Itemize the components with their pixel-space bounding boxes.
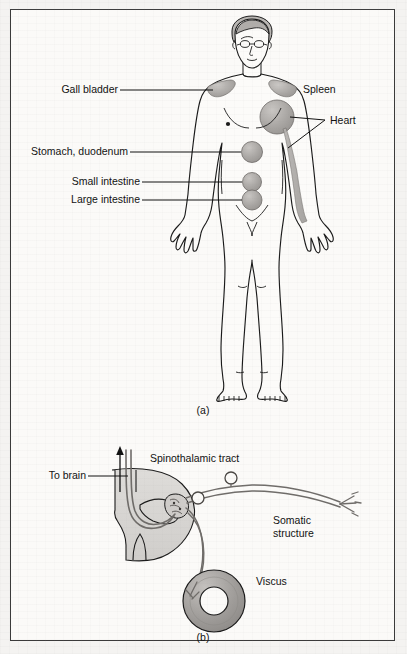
caption-panel-b: (b) <box>197 631 210 643</box>
label-small-intestine: Small intestine <box>72 175 140 187</box>
zone-small-intestine <box>243 173 262 192</box>
scanned-page: Gall bladder Spleen Heart Stomach, duode… <box>0 0 407 654</box>
zone-spleen-chest <box>260 100 294 134</box>
somatic-afferent-neuron <box>186 485 340 507</box>
label-viscus: Viscus <box>256 575 287 587</box>
zone-stomach-duodenum <box>242 142 263 163</box>
label-somatic-structure-line2: structure <box>273 527 314 539</box>
body-silhouette <box>171 74 334 401</box>
panel-b-figure: To brain Spinothalamic tract Somatic str… <box>49 446 361 643</box>
synapse-dot-2 <box>179 508 181 510</box>
feet-toes <box>219 396 285 401</box>
somatic-axon-lower <box>187 491 340 507</box>
label-stomach-duodenum: Stomach, duodenum <box>31 145 128 157</box>
synapse-dot-1 <box>173 502 175 504</box>
ear-right <box>269 42 271 49</box>
label-heart: Heart <box>330 114 356 126</box>
caption-panel-a: (a) <box>197 404 210 416</box>
label-spleen: Spleen <box>303 83 336 95</box>
visceral-cell-body <box>192 492 204 504</box>
zone-large-intestine <box>242 190 262 210</box>
panel-a-figure: Gall bladder Spleen Heart Stomach, duode… <box>31 16 356 416</box>
nipple-left <box>226 122 230 126</box>
label-gall-bladder: Gall bladder <box>61 83 118 95</box>
label-to-brain: To brain <box>49 469 87 481</box>
free-nerve-ending <box>340 492 361 516</box>
label-large-intestine: Large intestine <box>71 193 140 205</box>
figure-illustration: Gall bladder Spleen Heart Stomach, duode… <box>0 0 407 654</box>
label-spinothalamic-tract: Spinothalamic tract <box>150 452 239 464</box>
label-somatic-structure-line1: Somatic <box>273 514 311 526</box>
viscus-organ <box>183 570 245 632</box>
viscus-lumen <box>200 587 228 615</box>
dorsal-horn-synapse-cluster <box>165 494 189 518</box>
somatic-cell-body <box>225 472 237 484</box>
ear-left <box>233 42 235 49</box>
